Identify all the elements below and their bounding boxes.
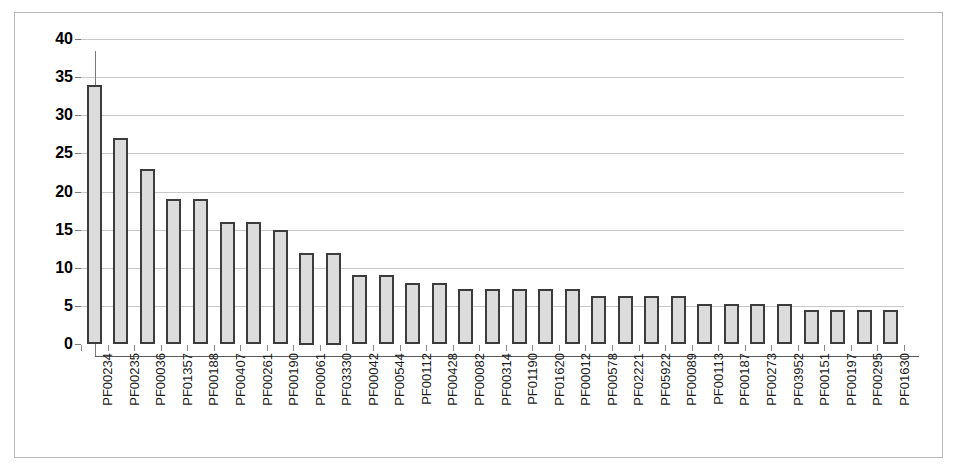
bar [246, 222, 261, 344]
x-axis-tick-label: PF00578 [605, 353, 620, 449]
x-axis-tick-mark [692, 345, 693, 351]
bar [166, 199, 181, 344]
bar [458, 289, 473, 344]
x-axis-tick-mark [718, 345, 719, 351]
y-axis-tick-label: 10 [13, 260, 73, 276]
x-axis-tick-mark [426, 345, 427, 351]
x-axis-tick-mark [904, 345, 905, 351]
x-axis-tick-mark [479, 345, 480, 351]
bar [326, 253, 341, 345]
x-axis-tick-label: PF00314 [499, 353, 514, 449]
y-axis-tick-label: 25 [13, 145, 73, 161]
y-axis-tick-label: 20 [13, 184, 73, 200]
x-axis-tick-label: PF00190 [286, 353, 301, 449]
x-axis-tick-mark [771, 345, 772, 351]
x-axis-tick-mark [453, 345, 454, 351]
y-axis-tick-label: 15 [13, 222, 73, 238]
x-axis-tick-label: PF00112 [419, 353, 434, 449]
bar [591, 296, 606, 344]
x-axis-tick-mark [851, 345, 852, 351]
bar-chart: 0510152025303540 PF00234PF00235PF00036PF… [0, 0, 957, 470]
x-axis-tick-label: PF01620 [552, 353, 567, 449]
x-axis-tick-label: PF00012 [578, 353, 593, 449]
bar [113, 138, 128, 344]
bar [538, 289, 553, 344]
bar [405, 283, 420, 344]
x-axis-tick-label: PF00407 [233, 353, 248, 449]
x-axis-tick-mark [346, 345, 347, 351]
bar [618, 296, 633, 344]
bar [883, 310, 898, 344]
x-axis-tick-mark [373, 345, 374, 351]
bar [830, 310, 845, 344]
x-axis-tick-label: PF00082 [472, 353, 487, 449]
x-axis-tick-label: PF00234 [100, 353, 115, 449]
x-axis-tick-label: PF00042 [366, 353, 381, 449]
x-axis-tick-mark [214, 345, 215, 351]
y-axis-tick-mark [75, 192, 81, 193]
bar [857, 310, 872, 344]
x-axis-tick-mark [161, 345, 162, 351]
bar [697, 304, 712, 344]
x-axis-tick-label: PF03952 [791, 353, 806, 449]
x-axis-tick-label: PF01357 [180, 353, 195, 449]
gridline [81, 39, 904, 40]
x-axis-tick-mark [240, 345, 241, 351]
bar [220, 222, 235, 344]
bar [140, 169, 155, 344]
y-axis-tick-label: 35 [13, 69, 73, 85]
x-axis-tick-label: PF00273 [764, 353, 779, 449]
x-axis-tick-mark [824, 345, 825, 351]
bar [193, 199, 208, 344]
x-axis-tick-mark [81, 345, 82, 351]
x-axis-tick-label: PF02221 [631, 353, 646, 449]
bar [379, 275, 394, 344]
x-axis-tick-mark [134, 345, 135, 351]
x-axis-tick-label: PF00187 [737, 353, 752, 449]
gridline [81, 115, 904, 116]
x-axis-tick-label: PF00235 [127, 353, 142, 449]
bar [432, 283, 447, 344]
y-axis-tick-mark [75, 306, 81, 307]
x-axis-tick-label: PF03330 [339, 353, 354, 449]
bar [512, 289, 527, 344]
bar [485, 289, 500, 344]
x-axis-tick-label: PF00188 [206, 353, 221, 449]
gridline [81, 344, 904, 345]
x-axis-tick-mark [745, 345, 746, 351]
y-axis-tick-label: 0 [13, 336, 73, 352]
x-axis-tick-mark [267, 345, 268, 351]
x-axis-tick-mark [665, 345, 666, 351]
x-axis-tick-label: PF01630 [897, 353, 912, 449]
x-axis-tick-label: PF01190 [525, 353, 540, 449]
bar [750, 304, 765, 344]
gridline [81, 77, 904, 78]
y-axis-tick-mark [75, 230, 81, 231]
x-axis-tick-mark [293, 345, 294, 351]
x-axis-tick-mark [320, 345, 321, 351]
x-axis-tick-label: PF00113 [711, 353, 726, 449]
x-axis-tick-label: PF00544 [392, 353, 407, 449]
chart-frame: 0510152025303540 PF00234PF00235PF00036PF… [14, 12, 943, 458]
x-axis-tick-label: PF00261 [260, 353, 275, 449]
bar [804, 310, 819, 344]
bar [724, 304, 739, 344]
x-axis-tick-mark [532, 345, 533, 351]
x-axis-tick-label: PF00061 [313, 353, 328, 449]
x-axis-tick-mark [108, 345, 109, 351]
x-axis-tick-mark [559, 345, 560, 351]
x-axis-tick-mark [639, 345, 640, 351]
y-axis-tick-mark [75, 39, 81, 40]
y-axis-tick-mark [75, 115, 81, 116]
x-axis-tick-label: PF00151 [817, 353, 832, 449]
x-axis-tick-label: PF00197 [844, 353, 859, 449]
bar [273, 230, 288, 344]
bar [87, 85, 102, 344]
x-axis-tick-label: PF00036 [153, 353, 168, 449]
y-axis-tick-label: 30 [13, 107, 73, 123]
x-axis-tick-mark [877, 345, 878, 351]
x-axis-tick-mark [400, 345, 401, 351]
x-axis-tick-label: PF00428 [445, 353, 460, 449]
x-axis-tick-mark [187, 345, 188, 351]
x-axis-tick-mark [798, 345, 799, 351]
